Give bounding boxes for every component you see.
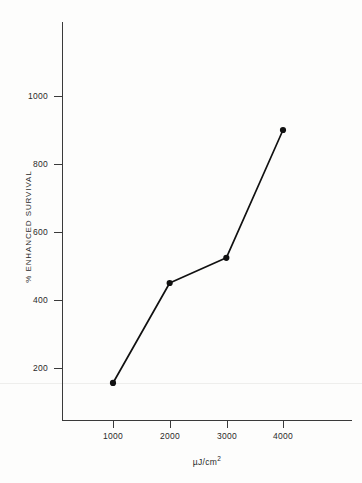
data-point [167,280,173,286]
chart-figure: 1000 800 600 400 200 1000 2000 3000 4000… [0,0,362,483]
series-line [113,130,283,383]
data-point [223,255,229,261]
series-markers [110,127,286,386]
data-series-layer [0,0,362,483]
data-point [280,127,286,133]
data-point [110,380,116,386]
